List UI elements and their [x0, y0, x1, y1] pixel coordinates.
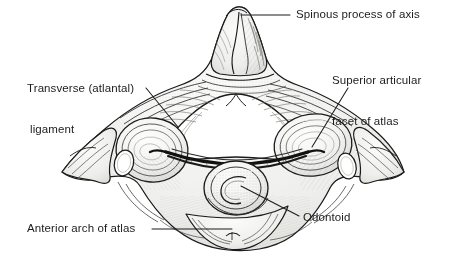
label-transverse-line-2: ligament: [27, 123, 134, 137]
label-superior-articular-facet-of-atlas: Superior articular facet of atlas: [332, 47, 421, 155]
label-transverse-atlantal-ligament: Transverse (atlantal) ligament: [27, 55, 134, 163]
label-odontoid: Odontoid: [303, 211, 350, 224]
label-spinous-process-of-axis: Spinous process of axis: [296, 8, 420, 21]
label-anterior-arch-of-atlas: Anterior arch of atlas: [27, 222, 135, 235]
label-superior-line-1: Superior articular: [332, 74, 421, 88]
label-transverse-line-1: Transverse (atlantal): [27, 82, 134, 96]
anatomical-figure: Spinous process of axis Transverse (atla…: [0, 0, 457, 255]
label-superior-line-2: facet of atlas: [332, 115, 421, 129]
